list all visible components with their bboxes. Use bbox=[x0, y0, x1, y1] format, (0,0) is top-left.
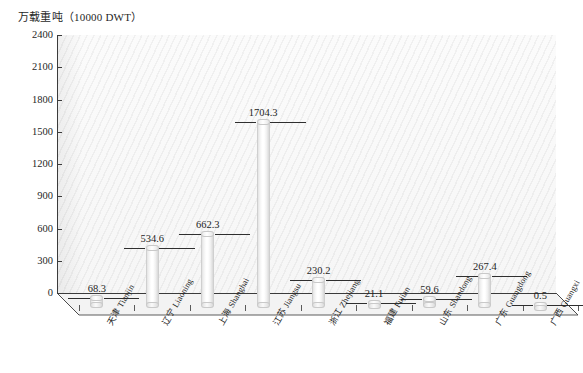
y-tick-label-300: 300 bbox=[7, 256, 53, 267]
bar-3 bbox=[257, 122, 270, 305]
bar-bottom-cap-5 bbox=[368, 303, 381, 309]
bar-0 bbox=[90, 298, 103, 305]
x-tick-5 bbox=[356, 305, 357, 311]
plot-back-wall bbox=[57, 35, 556, 293]
y-tick-900 bbox=[57, 196, 62, 197]
x-tick-6 bbox=[412, 305, 413, 311]
value-label-4: 230.2 bbox=[295, 266, 343, 277]
value-label-7: 267.4 bbox=[461, 262, 509, 273]
bar-top-cap-2 bbox=[201, 231, 214, 237]
x-tick-0 bbox=[79, 305, 80, 311]
y-tick-1200 bbox=[57, 164, 62, 165]
value-label-2: 662.3 bbox=[184, 220, 232, 231]
bar-top-cap-4 bbox=[312, 277, 325, 283]
y-tick-label-0: 0 bbox=[7, 288, 53, 299]
y-tick-label-1200: 1200 bbox=[7, 159, 53, 170]
value-label-3: 1704.3 bbox=[239, 108, 287, 119]
bar-top-rule-2 bbox=[215, 234, 250, 235]
y-tick-label-2400: 2400 bbox=[7, 30, 53, 41]
y-tick-label-600: 600 bbox=[7, 224, 53, 235]
y-tick-1800 bbox=[57, 100, 62, 101]
y-tick-label-900: 900 bbox=[7, 191, 53, 202]
bar-bottom-cap-6 bbox=[423, 302, 436, 308]
x-tick-7 bbox=[467, 305, 468, 311]
bar-8 bbox=[534, 305, 547, 308]
bar-top-rule-1 bbox=[159, 248, 194, 249]
y-tick-1500 bbox=[57, 132, 62, 133]
value-label-1: 534.6 bbox=[128, 234, 176, 245]
bar-top-rule-left-2 bbox=[179, 234, 200, 235]
bar-1 bbox=[146, 248, 159, 305]
x-tick-3 bbox=[245, 305, 246, 311]
bar-bottom-cap-2 bbox=[201, 302, 214, 308]
bar-bottom-cap-8 bbox=[534, 305, 547, 311]
y-tick-label-1800: 1800 bbox=[7, 95, 53, 106]
bar-bottom-cap-4 bbox=[312, 302, 325, 308]
y-tick-300 bbox=[57, 261, 62, 262]
wall-shading bbox=[57, 35, 556, 293]
y-tick-label-2100: 2100 bbox=[7, 62, 53, 73]
y-axis-tick-labels: 030060090012001500180021002400 bbox=[0, 0, 53, 373]
bar-bottom-cap-1 bbox=[146, 302, 159, 308]
y-tick-2100 bbox=[57, 67, 62, 68]
bar-4 bbox=[312, 280, 325, 305]
bar-top-rule-left-3 bbox=[235, 122, 256, 123]
bar-top-cap-3 bbox=[257, 119, 270, 125]
bar-top-rule-left-0 bbox=[68, 298, 89, 299]
bar-7 bbox=[478, 276, 491, 305]
y-tick-label-1500: 1500 bbox=[7, 127, 53, 138]
x-tick-1 bbox=[134, 305, 135, 311]
bar-6 bbox=[423, 299, 436, 305]
bar-2 bbox=[201, 234, 214, 305]
bar-top-rule-3 bbox=[270, 122, 305, 123]
bar-bottom-cap-7 bbox=[478, 302, 491, 308]
bar-top-cap-0 bbox=[90, 295, 103, 301]
bar-bottom-cap-0 bbox=[90, 302, 103, 308]
value-label-0: 68.3 bbox=[73, 284, 121, 295]
y-tick-600 bbox=[57, 229, 62, 230]
bar-top-cap-6 bbox=[423, 296, 436, 302]
x-tick-2 bbox=[190, 305, 191, 311]
bar-top-rule-left-1 bbox=[124, 248, 145, 249]
bar-top-cap-1 bbox=[146, 245, 159, 251]
y-tick-2400 bbox=[57, 35, 62, 36]
value-label-6: 59.6 bbox=[405, 285, 453, 296]
x-tick-4 bbox=[301, 305, 302, 311]
bar-top-cap-7 bbox=[478, 273, 491, 279]
bar-top-rule-left-8 bbox=[512, 305, 533, 306]
bar-5 bbox=[368, 303, 381, 306]
value-label-5: 21.1 bbox=[350, 289, 398, 300]
bar-bottom-cap-3 bbox=[257, 302, 270, 308]
